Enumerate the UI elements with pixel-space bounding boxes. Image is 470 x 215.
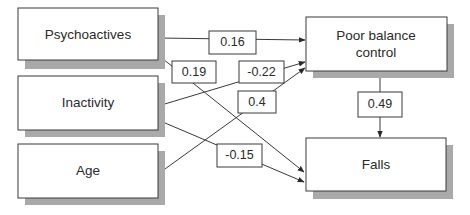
node-psychoactives: Psychoactives: [18, 8, 165, 69]
node-poor-balance-control: Poor balance control: [306, 17, 454, 78]
coefficient-neg-0-15: -0.15: [217, 144, 262, 167]
node-age-label: Age: [76, 163, 100, 178]
coefficient-neg-0-22: -0.22: [239, 61, 284, 83]
node-falls-label: Falls: [362, 157, 391, 172]
node-poor-balance-label-line2: control: [356, 45, 397, 60]
coefficient-neg-0-22-text: -0.22: [247, 65, 276, 79]
node-psychoactives-label: Psychoactives: [45, 27, 132, 42]
node-age: Age: [18, 144, 165, 205]
node-poor-balance-label-line1: Poor balance: [336, 28, 416, 43]
node-inactivity-label: Inactivity: [62, 95, 115, 110]
node-inactivity: Inactivity: [18, 76, 165, 137]
path-diagram: Psychoactives Inactivity Age Poor balanc…: [0, 0, 470, 215]
coefficient-0-16-text: 0.16: [220, 35, 244, 49]
coefficient-0-19-text: 0.19: [182, 65, 206, 79]
coefficient-0-19: 0.19: [172, 61, 216, 83]
coefficient-0-49: 0.49: [358, 92, 402, 117]
node-falls: Falls: [306, 138, 453, 199]
coefficient-0-16: 0.16: [209, 31, 256, 54]
coefficient-0-49-text: 0.49: [368, 97, 392, 111]
coefficient-0-4: 0.4: [238, 91, 276, 113]
coefficient-neg-0-15-text: -0.15: [225, 148, 254, 162]
coefficient-0-4-text: 0.4: [248, 95, 265, 109]
